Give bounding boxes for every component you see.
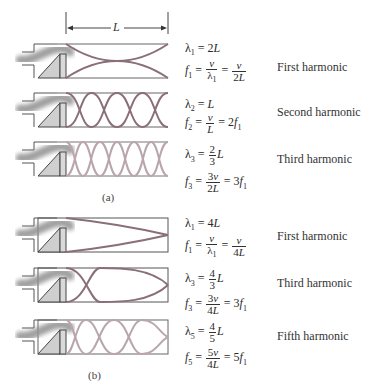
eq-a1-lambda: λ1 = 2L [185, 42, 220, 57]
pipe-b5 [20, 320, 168, 354]
label-b5: Fifth harmonic [277, 329, 349, 344]
eq-b1-freq: f1 = vλ1 = v4L [185, 233, 247, 260]
eq-b1-lambda: λ1 = 4L [185, 217, 220, 232]
label-b3: Third harmonic [277, 276, 352, 291]
eq-a3-lambda: λ3 = 23L [185, 144, 224, 167]
length-label: L [113, 20, 120, 35]
label-b1: First harmonic [277, 229, 347, 244]
label-a3: Third harmonic [277, 152, 352, 167]
eq-b3-lambda: λ3 = 43L [185, 268, 224, 291]
caption-b: (b) [88, 369, 101, 381]
eq-a1-freq: f1 = vλ1 = v2L [185, 58, 247, 85]
pipe-a1 [20, 44, 168, 78]
eq-b5-freq: f5 = 5v4L = 5f1 [185, 347, 247, 370]
eq-b5-lambda: λ5 = 45L [185, 321, 224, 344]
pipe-b3 [20, 268, 168, 302]
pipe-b1 [20, 218, 168, 252]
pipe-a2 [20, 93, 168, 127]
label-a1: First harmonic [277, 60, 347, 75]
eq-a2-freq: f2 = vL = 2f1 [185, 112, 241, 135]
eq-b3-freq: f3 = 3v4L = 3f1 [185, 293, 247, 316]
caption-a: (a) [102, 191, 114, 203]
pipe-a3 [20, 142, 168, 176]
label-a2: Second harmonic [277, 105, 361, 120]
eq-a3-freq: f3 = 3v2L = 3f1 [185, 171, 247, 194]
